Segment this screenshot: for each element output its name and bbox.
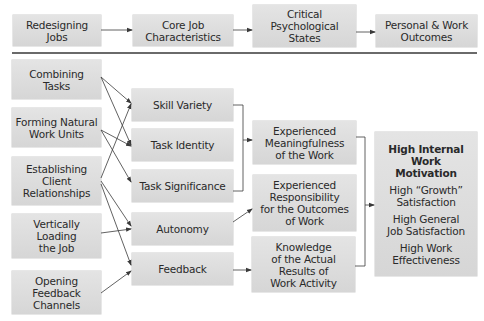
connector-lines: [0, 0, 484, 321]
